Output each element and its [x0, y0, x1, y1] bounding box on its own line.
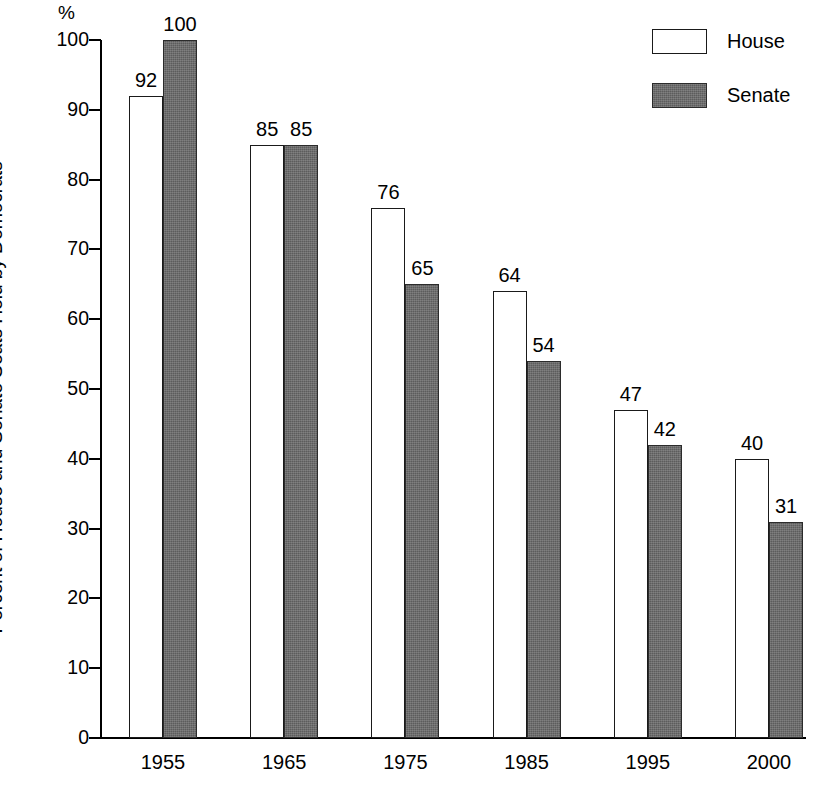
- legend-label-senate: Senate: [727, 85, 790, 105]
- bar-house-1965[interactable]: [250, 145, 284, 738]
- bar-value-label: 64: [480, 265, 540, 285]
- bar-value-label: 100: [150, 14, 210, 34]
- legend-swatch-house-icon: [652, 29, 707, 54]
- bar-house-1995[interactable]: [614, 410, 648, 738]
- bar-senate-1985[interactable]: [527, 361, 561, 738]
- bar-senate-1975[interactable]: [405, 284, 439, 738]
- chart-legend: House Senate: [652, 24, 812, 132]
- bar-house-1955[interactable]: [129, 96, 163, 738]
- x-axis-label-1975: 1975: [357, 752, 453, 772]
- bar-value-label: 54: [514, 335, 574, 355]
- x-axis-label-1995: 1995: [600, 752, 696, 772]
- bar-senate-1955[interactable]: [163, 40, 197, 738]
- bar-value-label: 85: [271, 119, 331, 139]
- bar-value-label: 42: [635, 419, 695, 439]
- bar-value-label: 47: [601, 384, 661, 404]
- bar-senate-2000[interactable]: [769, 522, 803, 738]
- bar-house-1975[interactable]: [371, 208, 405, 738]
- bar-value-label: 76: [358, 182, 418, 202]
- bar-senate-1995[interactable]: [648, 445, 682, 738]
- x-axis-label-1965: 1965: [236, 752, 332, 772]
- x-axis-label-2000: 2000: [721, 752, 817, 772]
- legend-swatch-senate-icon: [652, 83, 707, 108]
- chart-figure: Percent of House and Senate Seats Held b…: [0, 0, 817, 795]
- bar-value-label: 31: [756, 496, 816, 516]
- bar-value-label: 65: [392, 258, 452, 278]
- legend-item-house[interactable]: House: [652, 24, 812, 58]
- legend-item-senate[interactable]: Senate: [652, 78, 812, 112]
- legend-label-house: House: [727, 31, 785, 51]
- x-axis-label-1985: 1985: [479, 752, 575, 772]
- bar-senate-1965[interactable]: [284, 145, 318, 738]
- bar-house-1985[interactable]: [493, 291, 527, 738]
- x-axis-label-1955: 1955: [115, 752, 211, 772]
- bar-value-label: 40: [722, 433, 782, 453]
